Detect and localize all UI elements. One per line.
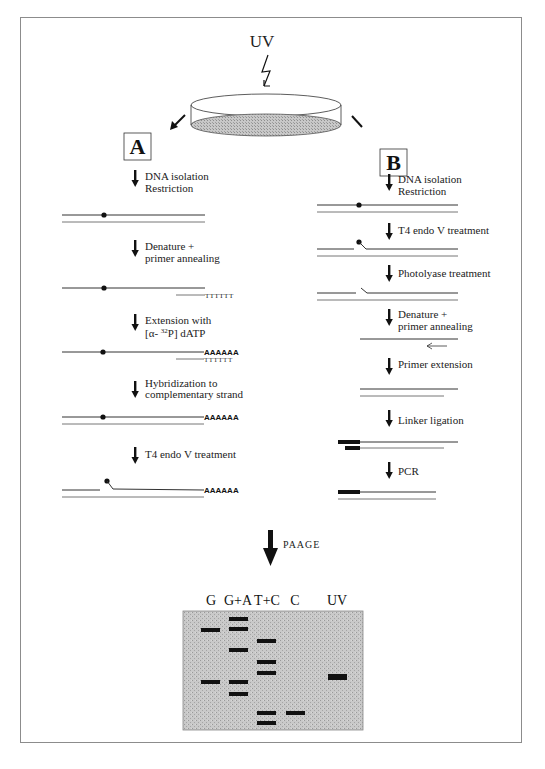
dna-photoreversed bbox=[317, 288, 458, 300]
down-arrow-icon bbox=[386, 420, 393, 427]
panel-a-step-3: Extension with [α- 32P] dATP bbox=[132, 314, 212, 339]
svg-text:complementary strand: complementary strand bbox=[145, 388, 244, 400]
dna-primer-annealed: TTTTTT bbox=[62, 285, 234, 300]
svg-text:C: C bbox=[290, 593, 299, 608]
gel-lane-labels: G G+A T+C C UV bbox=[206, 593, 347, 608]
svg-text:G: G bbox=[206, 593, 216, 608]
dimer-lesion-icon bbox=[101, 212, 106, 217]
svg-text:AAAAAA: AAAAAA bbox=[204, 413, 239, 422]
svg-text:T4 endo V treatment: T4 endo V treatment bbox=[398, 224, 489, 236]
down-arrow-icon bbox=[132, 391, 139, 398]
dna-pcr-product bbox=[338, 490, 436, 499]
down-arrow-icon bbox=[132, 250, 139, 257]
uv-source: UV bbox=[250, 32, 275, 86]
panel-b-step-2: T4 endo V treatment bbox=[386, 223, 489, 240]
lightning-bolt-icon bbox=[262, 55, 270, 86]
svg-text:DNA isolation: DNA isolation bbox=[145, 170, 209, 182]
dna-primer bbox=[360, 339, 458, 349]
svg-text:Denature +: Denature + bbox=[398, 308, 447, 320]
down-arrow-icon bbox=[132, 457, 139, 464]
down-arrow-icon bbox=[386, 319, 393, 326]
svg-text:T+C: T+C bbox=[254, 593, 280, 608]
dna-incised: AAAAAA bbox=[62, 478, 239, 497]
down-arrow-icon bbox=[132, 180, 139, 187]
svg-text:Photolyase treatment: Photolyase treatment bbox=[398, 267, 491, 279]
radiolabel-text: [α- 32P] dATP bbox=[145, 327, 205, 339]
panel-b-label: B bbox=[380, 149, 407, 176]
panel-b-step-7: PCR bbox=[386, 462, 420, 479]
gel-band bbox=[201, 680, 220, 684]
panel-a-step-1: DNA isolation Restriction bbox=[132, 170, 210, 194]
dna-linker-ligated bbox=[338, 440, 458, 450]
sequencing-gel bbox=[183, 611, 363, 730]
down-arrow-icon bbox=[386, 472, 393, 479]
down-arrow-icon bbox=[263, 548, 278, 566]
gel-band bbox=[229, 617, 248, 621]
gel-band bbox=[229, 648, 248, 652]
down-arrow-icon bbox=[386, 275, 393, 282]
gel-band bbox=[229, 680, 248, 684]
svg-text:PCR: PCR bbox=[398, 465, 419, 477]
gel-band bbox=[201, 628, 220, 632]
linker bbox=[345, 446, 360, 450]
svg-text:DNA isolation: DNA isolation bbox=[398, 173, 462, 185]
svg-text:primer annealing: primer annealing bbox=[145, 252, 220, 264]
gel-band bbox=[229, 692, 248, 696]
svg-text:TTTTTT: TTTTTT bbox=[204, 356, 233, 364]
uv-label: UV bbox=[250, 32, 275, 51]
dna-hybridized: AAAAAA bbox=[62, 413, 239, 424]
panel-a-step-4: Hybridization to complementary strand bbox=[132, 377, 244, 400]
panel-a: DNA isolation Restriction Denature + pri… bbox=[62, 170, 244, 497]
petri-dish bbox=[191, 94, 341, 136]
down-arrow-icon bbox=[386, 368, 393, 375]
gel-band bbox=[257, 711, 276, 715]
dna-duplex bbox=[62, 212, 205, 222]
svg-text:PAAGE: PAAGE bbox=[283, 539, 320, 550]
down-arrow-icon bbox=[386, 233, 393, 240]
branch-arrow-b bbox=[352, 116, 362, 127]
svg-text:A: A bbox=[130, 134, 146, 159]
branch-arrow-a bbox=[170, 115, 185, 130]
panel-b-step-5: Primer extension bbox=[386, 358, 474, 375]
gel-band bbox=[257, 639, 276, 643]
gel-band bbox=[257, 721, 276, 725]
gel-band bbox=[257, 660, 276, 664]
svg-text:UV: UV bbox=[327, 593, 347, 608]
svg-text:Extension with: Extension with bbox=[145, 314, 212, 326]
down-arrow-icon bbox=[386, 184, 393, 191]
paage-arrow: PAAGE bbox=[263, 530, 320, 566]
panel-a-label: A bbox=[124, 133, 151, 160]
linker bbox=[338, 440, 360, 444]
panel-a-step-2: Denature + primer annealing bbox=[132, 240, 221, 264]
svg-text:primer annealing: primer annealing bbox=[398, 320, 473, 332]
dna-incised bbox=[317, 239, 458, 256]
svg-text:Primer extension: Primer extension bbox=[398, 358, 473, 370]
svg-text:TTTTTT: TTTTTT bbox=[205, 292, 234, 300]
svg-text:B: B bbox=[386, 150, 401, 175]
svg-text:G+A: G+A bbox=[224, 593, 253, 608]
svg-text:T4 endo V treatment: T4 endo V treatment bbox=[145, 448, 236, 460]
diagram-canvas: UV A B DNA isolation Restriction bbox=[0, 0, 545, 769]
panel-b: DNA isolation Restriction T4 endo V trea… bbox=[317, 173, 491, 499]
dna-extended: AAAAAA TTTTTT bbox=[62, 348, 239, 364]
dna-extended bbox=[360, 389, 458, 396]
gel-band bbox=[286, 711, 305, 715]
svg-text:Linker ligation: Linker ligation bbox=[398, 414, 464, 426]
dna-duplex bbox=[317, 202, 458, 212]
gel-band bbox=[257, 671, 276, 675]
panel-b-step-6: Linker ligation bbox=[386, 410, 465, 427]
panel-b-step-4: Denature + primer annealing bbox=[386, 308, 474, 332]
down-arrow-icon bbox=[132, 324, 139, 331]
gel-band bbox=[229, 627, 248, 631]
panel-b-step-3: Photolyase treatment bbox=[386, 265, 491, 282]
svg-text:Restriction: Restriction bbox=[398, 185, 447, 197]
panel-b-step-1: DNA isolation Restriction bbox=[386, 173, 463, 197]
panel-a-step-5: T4 endo V treatment bbox=[132, 447, 236, 464]
svg-text:Denature +: Denature + bbox=[145, 240, 194, 252]
svg-text:Restriction: Restriction bbox=[145, 182, 194, 194]
svg-text:AAAAAA: AAAAAA bbox=[204, 486, 239, 495]
gel-band bbox=[328, 674, 347, 680]
